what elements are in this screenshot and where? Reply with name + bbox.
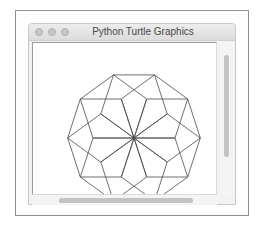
window-title: Python Turtle Graphics (29, 26, 235, 37)
rosette-drawing (33, 43, 216, 194)
pentagon-path (101, 138, 167, 194)
turtle-canvas[interactable] (32, 42, 217, 195)
title-bar[interactable]: Python Turtle Graphics (29, 24, 235, 41)
pentagon-path (101, 75, 167, 138)
turtle-window: Python Turtle Graphics (28, 23, 236, 205)
vertical-scroll-thumb[interactable] (224, 55, 229, 157)
pentagon-path (121, 138, 187, 194)
vertical-scrollbar[interactable] (220, 42, 234, 195)
horizontal-scroll-thumb[interactable] (59, 198, 193, 203)
horizontal-scrollbar[interactable] (32, 195, 217, 205)
